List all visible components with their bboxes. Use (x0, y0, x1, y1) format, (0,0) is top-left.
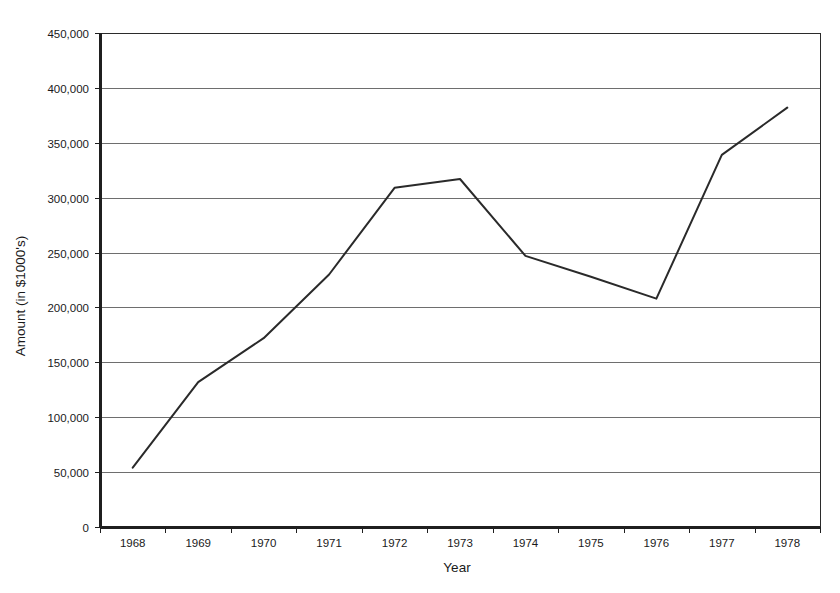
y-tick-label: 250,000 (47, 248, 89, 260)
y-tick-label: 350,000 (47, 138, 89, 150)
x-tick-label: 1976 (644, 537, 670, 549)
gridlines-group (95, 34, 820, 528)
x-tick-label: 1972 (382, 537, 408, 549)
x-tick-label: 1969 (185, 537, 211, 549)
y-tick-label: 0 (83, 522, 89, 534)
x-tick-label: 1970 (251, 537, 277, 549)
x-tick-label: 1978 (774, 537, 800, 549)
x-tick-label: 1974 (513, 537, 539, 549)
y-tick-label: 400,000 (47, 83, 89, 95)
line-chart: 050,000100,000150,000200,000250,000300,0… (0, 0, 840, 593)
data-series-line (133, 108, 788, 468)
y-tick-label: 150,000 (47, 357, 89, 369)
y-tick-label: 300,000 (47, 193, 89, 205)
chart-canvas: 050,000100,000150,000200,000250,000300,0… (0, 0, 840, 593)
x-tick-label: 1971 (316, 537, 342, 549)
plot-frame-group (100, 33, 821, 528)
y-tick-labels-group: 050,000100,000150,000200,000250,000300,0… (47, 28, 89, 534)
y-tick-label: 450,000 (47, 28, 89, 40)
y-tick-label: 100,000 (47, 412, 89, 424)
y-tick-label: 50,000 (54, 467, 89, 479)
x-tick-label: 1968 (120, 537, 146, 549)
y-tick-label: 200,000 (47, 302, 89, 314)
y-axis-title: Amount (in $1000's) (13, 236, 28, 356)
x-tick-labels-group: 1968196919701971197219731974197519761977… (120, 537, 800, 549)
series-group (133, 108, 788, 468)
x-tick-label: 1977 (709, 537, 735, 549)
x-axis-title: Year (443, 560, 471, 575)
x-tick-label: 1975 (578, 537, 604, 549)
x-tick-label: 1973 (447, 537, 473, 549)
plot-border (101, 34, 821, 528)
